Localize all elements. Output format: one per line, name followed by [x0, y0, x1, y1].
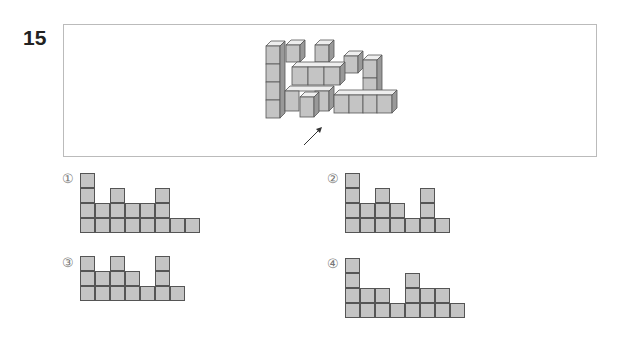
- grid-cell: [80, 218, 95, 233]
- grid-cell: [375, 218, 390, 233]
- grid-cell: [450, 303, 465, 318]
- grid-cell: [125, 286, 140, 301]
- grid-cell: [185, 218, 200, 233]
- grid-cell: [110, 188, 125, 203]
- grid-cell: [170, 218, 185, 233]
- grid-cell: [170, 286, 185, 301]
- grid-cell: [155, 256, 170, 271]
- grid-cell: [420, 288, 435, 303]
- grid-cell: [390, 203, 405, 218]
- grid-cell: [95, 218, 110, 233]
- option-4-label: ④: [327, 256, 339, 271]
- grid-cell: [420, 218, 435, 233]
- grid-cell: [360, 218, 375, 233]
- grid-cell: [345, 173, 360, 188]
- grid-cell: [435, 303, 450, 318]
- grid-cell: [375, 288, 390, 303]
- option-1-label: ①: [62, 171, 74, 186]
- grid-cell: [435, 288, 450, 303]
- grid-cell: [95, 271, 110, 286]
- question-number: 15: [23, 26, 46, 50]
- grid-cell: [345, 258, 360, 273]
- grid-cell: [155, 203, 170, 218]
- grid-cell: [155, 271, 170, 286]
- grid-cell: [345, 288, 360, 303]
- grid-cell: [345, 218, 360, 233]
- grid-cell: [110, 218, 125, 233]
- grid-cell: [405, 273, 420, 288]
- grid-cell: [360, 288, 375, 303]
- grid-cell: [405, 303, 420, 318]
- grid-cell: [375, 303, 390, 318]
- grid-cell: [155, 286, 170, 301]
- grid-cell: [390, 303, 405, 318]
- grid-cell: [155, 188, 170, 203]
- grid-cell: [420, 303, 435, 318]
- grid-cell: [435, 218, 450, 233]
- grid-cell: [95, 203, 110, 218]
- grid-cell: [125, 203, 140, 218]
- grid-cell: [420, 203, 435, 218]
- grid-cell: [80, 286, 95, 301]
- grid-cell: [405, 288, 420, 303]
- grid-cell: [80, 271, 95, 286]
- grid-cell: [155, 218, 170, 233]
- grid-cell: [80, 188, 95, 203]
- option-2-label: ②: [327, 171, 339, 186]
- grid-cell: [360, 303, 375, 318]
- grid-cell: [110, 271, 125, 286]
- grid-cell: [345, 188, 360, 203]
- grid-cell: [360, 203, 375, 218]
- grid-cell: [140, 203, 155, 218]
- grid-cell: [420, 188, 435, 203]
- grid-cell: [375, 188, 390, 203]
- grid-cell: [345, 203, 360, 218]
- grid-cell: [110, 256, 125, 271]
- grid-cell: [140, 286, 155, 301]
- grid-cell: [110, 203, 125, 218]
- grid-cell: [345, 273, 360, 288]
- view-arrow-icon: [304, 129, 320, 145]
- option-3-label: ③: [62, 255, 74, 270]
- figure-box: [63, 24, 597, 157]
- grid-cell: [345, 303, 360, 318]
- grid-cell: [110, 286, 125, 301]
- grid-cell: [80, 203, 95, 218]
- grid-cell: [95, 286, 110, 301]
- grid-cell: [125, 271, 140, 286]
- grid-cell: [375, 203, 390, 218]
- grid-cell: [80, 256, 95, 271]
- grid-cell: [125, 218, 140, 233]
- grid-cell: [140, 218, 155, 233]
- cube-stack-figure: [64, 25, 598, 158]
- grid-cell: [405, 218, 420, 233]
- grid-cell: [80, 173, 95, 188]
- grid-cell: [390, 218, 405, 233]
